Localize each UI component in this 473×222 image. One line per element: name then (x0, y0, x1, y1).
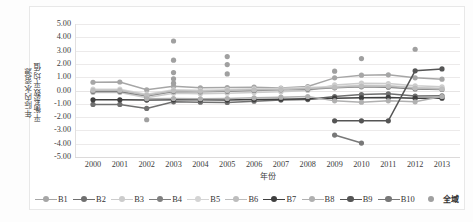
legend-label: B5 (210, 195, 220, 204)
data-point (386, 72, 391, 77)
x-axis-tick-label: 2010 (353, 160, 369, 170)
data-point (413, 86, 418, 91)
legend-label: B3 (134, 195, 144, 204)
legend-swatch-icon (263, 195, 285, 204)
data-point (90, 88, 95, 93)
legend-label: B4 (172, 195, 182, 204)
data-point (439, 94, 444, 99)
x-axis-tick-label: 2005 (219, 160, 235, 170)
legend-swatch-icon (378, 195, 400, 204)
data-point (332, 75, 337, 80)
y-axis-tick-label: -2.00 (54, 113, 71, 121)
y-axis-tick-label: 3.00 (57, 46, 71, 54)
data-point (359, 100, 364, 105)
data-point (359, 118, 364, 123)
legend-swatch-icon (340, 195, 362, 204)
series-line (335, 135, 362, 143)
data-point (413, 75, 418, 80)
data-point (144, 117, 149, 122)
data-point (359, 84, 364, 89)
y-axis-tick-label: -5.00 (54, 153, 71, 161)
legend-item-B9[interactable]: B9 (340, 195, 373, 204)
data-point (171, 88, 176, 93)
data-point (90, 102, 95, 107)
series-layer (75, 24, 460, 157)
data-point (332, 98, 337, 103)
legend-marker-icon (428, 196, 434, 202)
chart-figure: 年际内水资源 平衡系数平均值 5.004.003.002.001.000.00-… (0, 0, 473, 222)
legend-item-B3[interactable]: B3 (111, 195, 144, 204)
legend-item-B4[interactable]: B4 (149, 195, 182, 204)
data-point (117, 79, 122, 84)
data-point (439, 77, 444, 82)
legend-swatch-icon (302, 195, 324, 204)
data-point (198, 89, 203, 94)
legend-label: B6 (248, 195, 258, 204)
legend-label: B10 (401, 195, 415, 204)
x-axis-line (75, 157, 460, 158)
x-axis-tick-label: 2004 (192, 160, 208, 170)
legend-item-B5[interactable]: B5 (187, 195, 220, 204)
x-axis-tick-label: 2012 (407, 160, 423, 170)
series-B10 (332, 132, 364, 145)
chart-legend: B1B2B3B4B5B6B7B8B9B10全域 (31, 190, 463, 208)
legend-label: 全域 (443, 195, 459, 204)
legend-item-B6[interactable]: B6 (225, 195, 258, 204)
legend-marker-icon (309, 196, 315, 202)
y-axis-tick-label: -4.00 (54, 140, 71, 148)
legend-marker-icon (157, 196, 163, 202)
y-axis-tick-label: 1.00 (57, 73, 71, 81)
data-point (305, 86, 310, 91)
legend-swatch-icon (149, 195, 171, 204)
data-point (171, 96, 176, 101)
data-point (359, 140, 364, 145)
x-axis-tick-label: 2000 (85, 160, 101, 170)
legend-item-全域[interactable]: 全域 (420, 195, 459, 204)
legend-swatch-icon (187, 195, 209, 204)
data-point (225, 88, 230, 93)
data-point (117, 97, 122, 102)
x-axis-title: 年份 (75, 170, 460, 181)
y-axis-tick-label: -3.00 (54, 126, 71, 134)
data-point (439, 66, 444, 71)
data-point (359, 56, 364, 61)
data-point (359, 73, 364, 78)
legend-label: B9 (363, 195, 373, 204)
data-point (198, 96, 203, 101)
data-point (332, 85, 337, 90)
data-point (413, 47, 418, 52)
legend-marker-icon (195, 196, 201, 202)
data-point (117, 88, 122, 93)
legend-label: B2 (96, 195, 106, 204)
legend-swatch-icon (420, 195, 442, 204)
legend-item-B1[interactable]: B1 (35, 195, 68, 204)
legend-marker-icon (271, 196, 277, 202)
x-axis-tick-label: 2001 (112, 160, 128, 170)
x-axis-tick-label: 2003 (165, 160, 181, 170)
data-point (332, 132, 337, 137)
x-axis-tick-label: 2006 (246, 160, 262, 170)
data-point (332, 69, 337, 74)
data-point (278, 95, 283, 100)
data-point (117, 102, 122, 107)
data-point (225, 62, 230, 67)
legend-item-B8[interactable]: B8 (302, 195, 335, 204)
legend-marker-icon (81, 196, 87, 202)
data-point (413, 68, 418, 73)
y-axis-tick-label: -1.00 (54, 100, 71, 108)
series-全域 (144, 38, 418, 122)
legend-marker-icon (233, 196, 239, 202)
data-point (225, 71, 230, 76)
legend-item-B10[interactable]: B10 (378, 195, 415, 204)
x-axis-tick-label: 2013 (434, 160, 450, 170)
data-point (386, 118, 391, 123)
legend-item-B2[interactable]: B2 (73, 195, 106, 204)
data-point (413, 99, 418, 104)
legend-marker-icon (347, 196, 353, 202)
data-point (251, 87, 256, 92)
x-axis-tick-label: 2007 (273, 160, 289, 170)
y-axis-tick-label: 0.00 (57, 86, 71, 94)
data-point (90, 97, 95, 102)
x-axis-tick-label: 2008 (300, 160, 316, 170)
legend-item-B7[interactable]: B7 (263, 195, 296, 204)
